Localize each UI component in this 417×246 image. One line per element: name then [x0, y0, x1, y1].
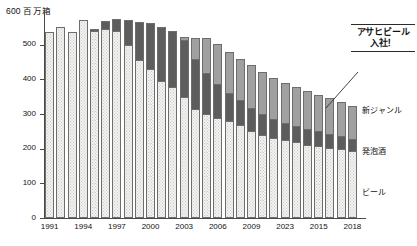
bar-segment-newgenre [191, 38, 200, 58]
bar-1996 [101, 21, 110, 218]
bar-segment-newgenre [225, 52, 234, 93]
bar-segment-newgenre [314, 95, 323, 132]
bar-segment-happoshu [168, 31, 177, 88]
bar-segment-happoshu [157, 27, 166, 81]
bar-segment-beer [124, 45, 133, 218]
bar-2002 [168, 31, 177, 218]
bar-1994 [79, 20, 88, 218]
bar-segment-beer [45, 32, 54, 219]
x-axis-tick-label: 2023 [276, 222, 294, 231]
bar-segment-happoshu [281, 123, 290, 140]
bar-2009 [247, 65, 256, 218]
bar-segment-happoshu [225, 93, 234, 121]
bar-segment-beer [90, 31, 99, 218]
bar-1995 [90, 29, 99, 218]
bar-segment-beer [101, 29, 110, 218]
annotation-text-line2: 入社！ [351, 38, 415, 49]
bar-segment-beer [348, 151, 357, 218]
bar-segment-newgenre [236, 59, 245, 101]
bar-segment-happoshu [135, 22, 144, 60]
bar-segment-beer [191, 109, 200, 218]
bar-segment-happoshu [112, 19, 121, 31]
bar-segment-happoshu [146, 23, 155, 69]
bar-segment-newgenre [325, 98, 334, 133]
series-label-happoshu: 発泡酒 [362, 145, 386, 156]
bar-segment-newgenre [213, 44, 222, 84]
y-axis-tick-label: 0 [32, 213, 36, 222]
bar-segment-happoshu [325, 134, 334, 148]
bar-segment-beer [281, 140, 290, 218]
x-axis-labels: 1991199419972000200320062009202320152018 [44, 220, 358, 236]
y-axis-tick-label: 300 [23, 109, 36, 118]
bar-2001 [157, 27, 166, 218]
bar-segment-happoshu [258, 114, 267, 135]
bar-1991 [45, 32, 54, 219]
bar-segment-beer [258, 135, 267, 218]
x-axis-tick-label: 2000 [142, 222, 160, 231]
bar-2008 [236, 59, 245, 218]
bar-1999 [135, 22, 144, 218]
bar-segment-beer [303, 145, 312, 218]
bar-2000 [146, 23, 155, 218]
bar-segment-happoshu [191, 59, 200, 109]
y-axis-tick-mark [40, 218, 44, 219]
x-axis-tick-label: 1997 [108, 222, 126, 231]
bar-segment-beer [112, 31, 121, 218]
x-axis-line [44, 218, 366, 219]
bar-segment-happoshu [269, 119, 278, 138]
y-axis-tick-label: 500 [23, 39, 36, 48]
series-label-beer: ビール [362, 186, 386, 197]
annotation-text-line1: アサヒビール [351, 27, 415, 38]
bar-series-group [44, 10, 358, 218]
bar-2011 [269, 78, 278, 218]
bar-segment-beer [202, 114, 211, 218]
bar-segment-beer [168, 87, 177, 218]
bar-2005 [202, 38, 211, 218]
bar-segment-beer [292, 142, 301, 218]
bar-segment-beer [68, 32, 77, 218]
bar-segment-newgenre [202, 38, 211, 73]
bar-segment-happoshu [101, 21, 110, 29]
bar-2015 [314, 95, 323, 218]
bar-segment-happoshu [303, 129, 312, 144]
chart-canvas: 600 百万箱 0100200300400500 199119941997200… [0, 0, 417, 246]
x-axis-tick-label: 2018 [343, 222, 361, 231]
bar-segment-beer [135, 60, 144, 218]
bar-segment-happoshu [314, 131, 323, 146]
x-axis-tick-label: 1991 [41, 222, 59, 231]
bar-segment-happoshu [180, 40, 189, 97]
bar-2004 [191, 38, 200, 218]
bar-2018 [348, 106, 357, 218]
bar-segment-newgenre [348, 106, 357, 139]
y-axis-tick-label: 200 [23, 143, 36, 152]
bar-segment-newgenre [303, 91, 312, 129]
bar-segment-beer [79, 20, 88, 218]
bar-segment-beer [157, 81, 166, 218]
bar-segment-newgenre [247, 65, 256, 107]
bar-segment-newgenre [258, 72, 267, 114]
bar-segment-beer [146, 69, 155, 218]
x-axis-tick-label: 2015 [310, 222, 328, 231]
bar-1993 [68, 32, 77, 218]
plot-area [44, 10, 358, 218]
bar-segment-happoshu [247, 108, 256, 131]
x-axis-tick-label: 2006 [209, 222, 227, 231]
bar-2014 [303, 91, 312, 218]
bar-2013 [292, 87, 301, 218]
bar-segment-beer [225, 121, 234, 218]
annotation-rule-top [351, 24, 415, 25]
bar-segment-beer [247, 131, 256, 218]
bar-segment-happoshu [348, 139, 357, 151]
bar-2010 [258, 72, 267, 218]
bar-segment-happoshu [202, 73, 211, 114]
bar-segment-happoshu [337, 136, 346, 149]
bar-segment-newgenre [292, 87, 301, 127]
bar-1992 [56, 27, 65, 218]
bar-segment-beer [56, 27, 65, 218]
bar-segment-newgenre [281, 83, 290, 123]
bar-segment-beer [213, 118, 222, 218]
bar-segment-beer [325, 148, 334, 218]
bar-segment-beer [269, 138, 278, 218]
bar-1997 [112, 19, 121, 218]
bar-segment-beer [314, 146, 323, 218]
